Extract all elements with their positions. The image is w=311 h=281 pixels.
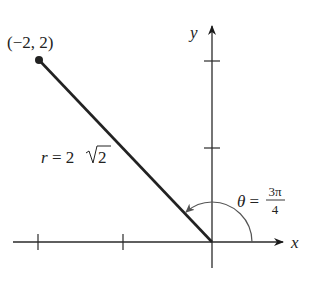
y-axis: [204, 26, 220, 268]
x-axis-label: x: [290, 233, 299, 252]
svg-text:θ =: θ =: [237, 192, 259, 211]
point-marker: [35, 56, 43, 64]
y-axis-label: y: [188, 23, 198, 42]
svg-text:3π: 3π: [268, 184, 282, 199]
svg-text:4: 4: [272, 202, 279, 217]
x-axis: [13, 234, 283, 250]
point-label: (−2, 2): [7, 33, 53, 52]
polar-coordinate-diagram: (−2, 2) y x r = 2 2 θ = 3π 4: [0, 0, 311, 281]
svg-text:r = 2: r = 2: [41, 148, 74, 167]
radius-label: r = 2 2: [41, 146, 111, 167]
angle-label: θ = 3π 4: [237, 184, 285, 217]
svg-text:2: 2: [98, 148, 107, 167]
